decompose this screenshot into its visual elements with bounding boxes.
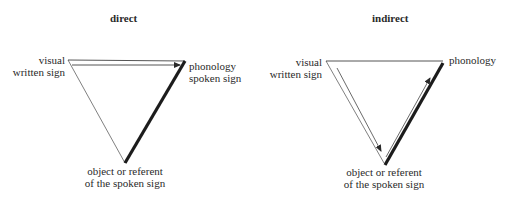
indirect-arrow-down: [337, 68, 381, 151]
label-line: written sign: [10, 66, 65, 78]
label-line: object or referent: [75, 165, 175, 177]
direct-triangle: [68, 60, 185, 163]
indirect-label-object: object or referent of the spoken sign: [334, 166, 434, 190]
edge-visual-to-phonology: [68, 60, 185, 61]
indirect-arrow-up: [386, 78, 430, 157]
direct-label-visual: visual written sign: [10, 54, 65, 78]
edge-phonology-to-object-bold: [385, 63, 443, 165]
label-line: of the spoken sign: [75, 177, 175, 189]
indirect-title: indirect: [372, 12, 408, 24]
label-line: phonology: [189, 60, 241, 72]
label-line: object or referent: [334, 166, 434, 178]
indirect-label-phonology: phonology: [449, 54, 496, 66]
direct-label-object: object or referent of the spoken sign: [75, 165, 175, 189]
direct-label-phonology: phonology spoken sign: [189, 60, 241, 84]
edge-phonology-to-object-bold: [125, 61, 185, 163]
label-line: visual: [10, 54, 65, 66]
direct-title: direct: [110, 12, 137, 24]
label-line: spoken sign: [189, 72, 241, 84]
label-line: written sign: [266, 68, 322, 80]
edge-visual-to-object: [68, 60, 125, 163]
label-line: of the spoken sign: [334, 178, 434, 190]
label-line: phonology: [449, 54, 496, 66]
indirect-label-visual: visual written sign: [266, 56, 322, 80]
indirect-triangle: [326, 61, 443, 165]
label-line: visual: [266, 56, 322, 68]
edge-visual-to-object: [326, 61, 384, 163]
